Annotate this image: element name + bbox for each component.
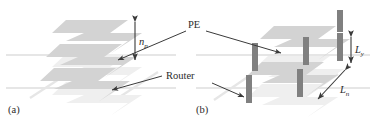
panel-b-router-bar-topmost: [337, 10, 343, 32]
router-label: Router: [166, 70, 195, 81]
ln-label-subscript: n: [346, 90, 350, 98]
router-bar: [303, 37, 309, 65]
router-bar: [337, 10, 343, 32]
figure-root: np (a) PE Router: [0, 0, 374, 121]
panel-b-label: (b): [196, 104, 209, 116]
pe-label: PE: [188, 19, 200, 30]
router-bar: [252, 43, 258, 71]
router-bar: [297, 69, 303, 97]
figure-canvas: np (a) PE Router: [0, 0, 374, 121]
panel-a-label: (a): [8, 104, 20, 116]
router-bar: [337, 33, 343, 61]
router-bar: [246, 75, 252, 103]
